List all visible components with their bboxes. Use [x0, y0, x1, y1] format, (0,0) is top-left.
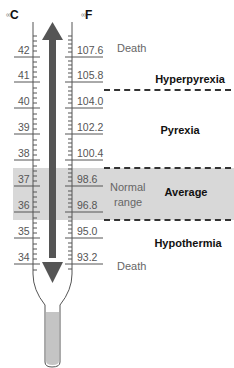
fahrenheit-letter: F [85, 8, 92, 22]
fahrenheit-unit-label: ∞F [81, 8, 92, 22]
celsius-value: 34 [18, 251, 42, 263]
celsius-value: 42 [18, 44, 42, 56]
pyrexia-label: Pyrexia [148, 124, 212, 136]
fahrenheit-value: 98.6 [77, 173, 107, 185]
fahrenheit-value: 100.4 [77, 147, 107, 159]
hypothermia-boundary-line [104, 219, 231, 221]
normal-range-label-line1: Normal [110, 181, 145, 193]
fahrenheit-ticks [68, 36, 72, 269]
fahrenheit-value: 93.2 [77, 251, 107, 263]
celsius-unit-label: ∞C [6, 8, 19, 22]
celsius-value: 39 [18, 121, 42, 133]
pyrexia-boundary-line [104, 167, 231, 169]
celsius-value: 36 [18, 199, 42, 211]
fahrenheit-value: 105.8 [77, 69, 107, 81]
celsius-value: 40 [18, 95, 42, 107]
death-label-bottom: Death [117, 260, 146, 272]
fahrenheit-value: 95.0 [77, 225, 107, 237]
fahrenheit-value: 102.2 [77, 121, 107, 133]
normal-range-label-line2: range [114, 196, 142, 208]
fahrenheit-value: 104.0 [77, 95, 107, 107]
fahrenheit-value: 96.8 [77, 199, 107, 211]
celsius-value: 35 [18, 225, 42, 237]
average-label: Average [156, 186, 216, 198]
hypothermia-label: Hypothermia [148, 237, 228, 249]
celsius-value: 41 [18, 69, 42, 81]
hyperpyrexia-boundary-line [104, 89, 231, 91]
double-arrow-icon [42, 22, 63, 283]
death-label-top: Death [117, 42, 146, 54]
celsius-value: 37 [18, 173, 42, 185]
celsius-value: 38 [18, 147, 42, 159]
fahrenheit-value: 107.6 [77, 44, 107, 56]
hyperpyrexia-label: Hyperpyrexia [148, 73, 232, 85]
celsius-letter: C [10, 8, 19, 22]
